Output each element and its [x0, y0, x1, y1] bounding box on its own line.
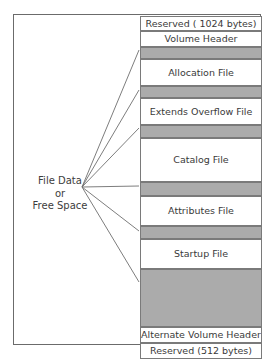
- volume-block-label: Extends Overflow File: [150, 107, 253, 117]
- file-data-or-free-space-label: File Data or Free Space: [16, 175, 104, 213]
- left-label-line-2: or: [16, 188, 104, 201]
- volume-layout-column: Reserved ( 1024 bytes)Volume HeaderAlloc…: [140, 16, 262, 344]
- volume-block-label: Reserved (512 bytes): [150, 346, 252, 356]
- volume-block-free-space: [140, 47, 262, 59]
- left-label-line-1: File Data: [16, 175, 104, 188]
- volume-block-label: Attributes File: [168, 206, 234, 216]
- volume-block-volume-header: Volume Header: [140, 31, 262, 47]
- hfs-volume-layout-figure: File Data or Free Space Reserved ( 1024 …: [0, 0, 277, 360]
- volume-block-free-space: [140, 269, 262, 327]
- volume-block-allocation-file: Allocation File: [140, 59, 262, 86]
- volume-block-reserved: Reserved ( 1024 bytes): [140, 16, 262, 31]
- volume-block-label: Startup File: [174, 249, 228, 259]
- volume-block-free-space: [140, 226, 262, 239]
- volume-block-label: Reserved ( 1024 bytes): [145, 19, 256, 29]
- volume-block-label: Catalog File: [173, 155, 228, 165]
- volume-block-startup-file: Startup File: [140, 239, 262, 269]
- volume-block-catalog-file: Catalog File: [140, 138, 262, 182]
- volume-block-free-space: [140, 182, 262, 196]
- volume-block-free-space: [140, 86, 262, 98]
- volume-block-free-space: [140, 125, 262, 138]
- volume-block-alternate-volume-header: Alternate Volume Header: [140, 327, 262, 343]
- volume-block-label: Alternate Volume Header: [141, 330, 261, 340]
- volume-block-reserved: Reserved (512 bytes): [140, 343, 262, 359]
- volume-block-attributes-file: Attributes File: [140, 196, 262, 226]
- left-label-line-3: Free Space: [16, 200, 104, 213]
- volume-block-extents-overflow-file: Extends Overflow File: [140, 98, 262, 125]
- volume-block-label: Allocation File: [168, 68, 234, 78]
- volume-block-label: Volume Header: [165, 34, 238, 44]
